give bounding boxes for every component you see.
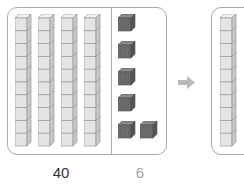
unit-cube [118, 41, 136, 59]
tens-ones-divider [111, 8, 112, 154]
tens-rod [61, 14, 79, 148]
unit-cube-icon [118, 41, 136, 59]
tens-rod-icon [61, 14, 79, 148]
unit-cube [118, 68, 136, 86]
unit-cube-icon [118, 94, 136, 112]
unit-cube-icon [118, 68, 136, 86]
unit-cube-icon [118, 14, 136, 32]
unit-cube [118, 121, 136, 139]
tens-rod [15, 14, 33, 148]
unit-cube-icon [140, 121, 158, 139]
tens-rod [220, 14, 238, 148]
ones-value-label: 6 [120, 164, 160, 181]
tens-rod [38, 14, 56, 148]
unit-cube [118, 14, 136, 32]
unit-cube-icon [118, 121, 136, 139]
tens-rod-icon [84, 14, 102, 148]
tens-rod-icon [220, 14, 238, 148]
unit-cube [118, 94, 136, 112]
tens-value-label: 40 [41, 164, 81, 181]
unit-cube [140, 121, 158, 139]
tens-rod-icon [38, 14, 56, 148]
right-arrow-icon [178, 76, 195, 89]
tens-rod [84, 14, 102, 148]
tens-rod-icon [15, 14, 33, 148]
